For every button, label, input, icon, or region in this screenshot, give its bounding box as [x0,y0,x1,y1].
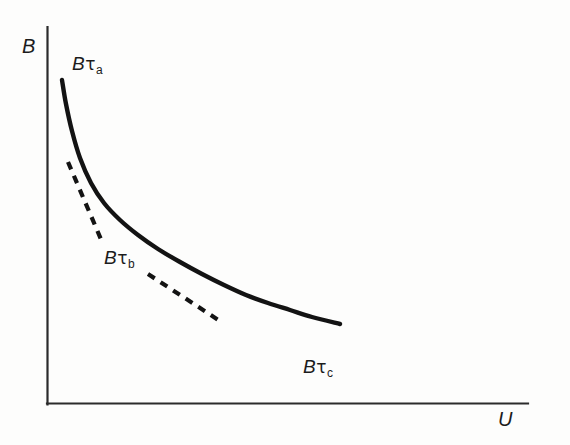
figure-canvas: B U Bτa Bτb Bτc [0,0,570,445]
x-axis-label-text: U [498,408,513,430]
tau-b-base: B [104,247,117,268]
x-axis-label: U [498,409,513,429]
tau-c-subscript: c [326,366,333,380]
tau-c-symbol: τ [316,357,326,377]
y-axis-label: B [22,36,36,56]
curve-label-tau-a: Bτa [72,54,103,76]
axes-group [47,27,528,405]
curve-label-tau-b: Bτb [104,248,135,270]
b-curve-solid [62,80,340,324]
tau-b-symbol: τ [117,248,127,268]
tau-b-subscript: b [127,257,134,271]
tau-a-symbol: τ [85,54,95,74]
y-axis-label-text: B [22,35,36,57]
tau-a-subscript: a [95,63,102,77]
tau-c-base: B [303,356,316,377]
tau-a-base: B [72,53,85,74]
data-curves-group [62,80,340,324]
curve-label-tau-c: Bτc [303,357,333,379]
